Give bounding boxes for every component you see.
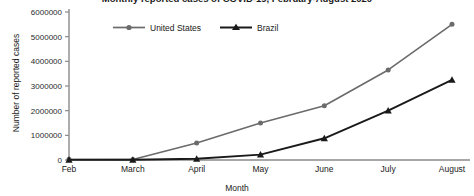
data-point-marker <box>386 67 391 72</box>
chart-title: Monthly reported cases of COVID-19, Febr… <box>0 0 474 4</box>
x-tick-label: July <box>381 164 396 174</box>
data-point-marker <box>450 22 455 27</box>
x-tick-label: Feb <box>62 164 77 174</box>
x-tick-label: March <box>121 164 145 174</box>
legend-label: United States <box>150 23 201 33</box>
x-axis-title: Month <box>0 183 474 193</box>
line-chart: Monthly reported cases of COVID-19, Febr… <box>0 0 474 196</box>
data-point-marker <box>448 76 455 83</box>
y-tick-label: 3000000 <box>6 82 62 91</box>
triangle-marker-icon <box>219 22 253 33</box>
legend-label: Brazil <box>257 23 278 33</box>
y-tick-label: 5000000 <box>6 32 62 41</box>
y-tick-label: 0 <box>6 156 62 165</box>
y-tick-label: 2000000 <box>6 106 62 115</box>
x-tick-label: April <box>188 164 205 174</box>
x-tick-label: June <box>315 164 333 174</box>
x-tick-label: August <box>439 164 465 174</box>
series-line <box>69 80 452 160</box>
data-point-marker <box>194 140 199 145</box>
data-point-marker <box>322 103 327 108</box>
y-tick-label: 1000000 <box>6 131 62 140</box>
x-tick-label: May <box>252 164 268 174</box>
chart-legend: United StatesBrazil <box>112 22 278 33</box>
circle-marker-icon <box>112 22 146 33</box>
y-axis-tick-labels: 0100000020000003000000400000050000006000… <box>6 0 62 196</box>
legend-item-2: Brazil <box>219 22 278 33</box>
legend-item-1: United States <box>112 22 201 33</box>
series-line <box>69 24 452 159</box>
series-1 <box>67 22 455 162</box>
y-tick-label: 6000000 <box>6 8 62 17</box>
series-2 <box>65 76 455 163</box>
y-tick-label: 4000000 <box>6 57 62 66</box>
data-point-marker <box>258 121 263 126</box>
